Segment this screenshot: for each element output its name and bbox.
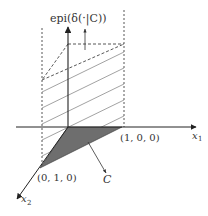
- c-pointer-arrow: [88, 142, 106, 173]
- svg-text:1: 1: [198, 135, 202, 143]
- x2-axis-label: x 2: [21, 193, 31, 207]
- point-100-label: (1, 0, 0): [120, 132, 160, 143]
- epigraph-diagram: epi(δ(·|C)) (1, 0, 0) (0, 1, 0) C x 1 x …: [0, 0, 208, 216]
- dashed-top-triangle: [42, 44, 124, 80]
- svg-text:2: 2: [27, 199, 31, 207]
- x2-axis: [17, 127, 68, 199]
- epigraph-label: epi(δ(·|C)): [50, 12, 106, 26]
- set-c-label: C: [103, 173, 112, 186]
- point-010-label: (0, 1, 0): [37, 172, 77, 183]
- set-c-triangle: [40, 127, 122, 168]
- x1-axis-label: x 1: [192, 130, 202, 143]
